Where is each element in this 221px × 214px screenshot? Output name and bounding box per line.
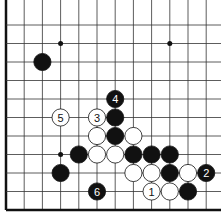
black-stone: [107, 109, 124, 126]
black-stone: [179, 183, 196, 200]
white-stone-1: 1: [143, 183, 160, 200]
black-stone: [143, 146, 160, 163]
black-stone-4: 4: [107, 90, 124, 107]
go-board: 453261: [0, 0, 221, 214]
white-stone: [179, 164, 196, 181]
black-stone-2: 2: [198, 164, 215, 181]
move-number: 2: [203, 167, 209, 179]
white-stone-5: 5: [52, 109, 69, 126]
move-number: 3: [94, 112, 100, 124]
star-point: [167, 41, 172, 46]
black-stone: [52, 164, 69, 181]
white-stone: [161, 183, 178, 200]
white-stone: [125, 127, 142, 144]
star-point: [58, 41, 63, 46]
white-stone: [125, 164, 142, 181]
black-stone-6: 6: [88, 183, 105, 200]
black-stone: [107, 127, 124, 144]
black-stone: [161, 164, 178, 181]
black-stone: [125, 146, 142, 163]
move-number: 6: [94, 186, 100, 198]
move-number: 4: [112, 93, 118, 105]
white-stone: [88, 127, 105, 144]
white-stone: [143, 164, 160, 181]
white-stone-3: 3: [88, 109, 105, 126]
white-stone: [88, 146, 105, 163]
black-stone: [161, 146, 178, 163]
black-stone: [70, 146, 87, 163]
move-number: 1: [149, 186, 155, 198]
black-stone: [34, 53, 51, 70]
star-point: [58, 152, 63, 157]
white-stone: [107, 146, 124, 163]
move-number: 5: [58, 112, 64, 124]
